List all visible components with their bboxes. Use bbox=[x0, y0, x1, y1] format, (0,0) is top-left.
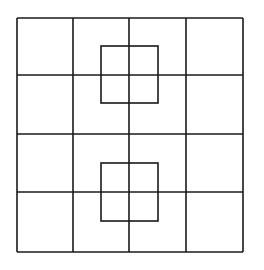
grid-diagram bbox=[0, 0, 264, 270]
grid-lines bbox=[17, 18, 243, 252]
